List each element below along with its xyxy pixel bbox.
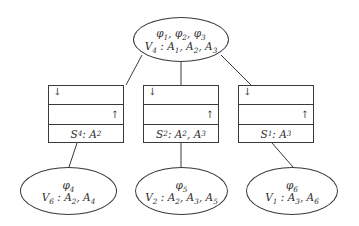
node-leaf-v6: φ4 V6 : A2, A4 [20, 167, 117, 215]
leaf-variables-label: V6 : A2, A4 [42, 191, 96, 204]
separator-box-s1: ↓ ↑ S1 : A3 [238, 85, 314, 143]
up-arrow-icon: ↑ [301, 110, 309, 120]
separator-box-s2: ↓ ↑ S2 : A2, A3 [143, 85, 219, 143]
node-leaf-v2: φ5 V2 : A2, A3, A5 [135, 167, 228, 215]
junction-tree-diagram: φ1, φ2, φ3 V4 : A1, A2, A3 ↓ ↑ S4 : A2 ↓… [0, 0, 359, 226]
edge-right-box-leaf [272, 143, 293, 167]
leaf-variables-label: V1 : A3, A6 [265, 191, 319, 204]
separator-label-s4: S4 : A2 [49, 124, 123, 142]
outbox-row: ↑ [49, 104, 123, 124]
leaf-potentials-label: φ4 [62, 179, 74, 192]
separator-label-s1: S1 : A3 [239, 124, 313, 142]
node-leaf-v1: φ6 V1 : A3, A6 [246, 167, 338, 215]
leaf-potentials-label: φ6 [286, 179, 298, 192]
edge-root-left-box [126, 55, 142, 85]
down-arrow-icon: ↓ [243, 87, 251, 97]
root-potentials-label: φ1, φ2, φ3 [156, 27, 205, 40]
separator-label-s2: S2 : A2, A3 [144, 124, 218, 142]
up-arrow-icon: ↑ [111, 110, 119, 120]
inbox-row: ↓ [239, 86, 313, 104]
outbox-row: ↑ [239, 104, 313, 124]
edge-left-box-leaf [69, 143, 77, 167]
outbox-row: ↑ [144, 104, 218, 124]
inbox-row: ↓ [144, 86, 218, 104]
down-arrow-icon: ↓ [148, 87, 156, 97]
up-arrow-icon: ↑ [206, 110, 214, 120]
node-root-clique: φ1, φ2, φ3 V4 : A1, A2, A3 [133, 17, 229, 62]
inbox-row: ↓ [49, 86, 123, 104]
down-arrow-icon: ↓ [53, 87, 61, 97]
separator-box-s4: ↓ ↑ S4 : A2 [48, 85, 124, 143]
leaf-potentials-label: φ5 [175, 179, 187, 192]
root-variables-label: V4 : A1, A2, A3 [145, 40, 218, 53]
edge-root-right-box [221, 55, 251, 85]
leaf-variables-label: V2 : A2, A3, A5 [145, 191, 218, 204]
